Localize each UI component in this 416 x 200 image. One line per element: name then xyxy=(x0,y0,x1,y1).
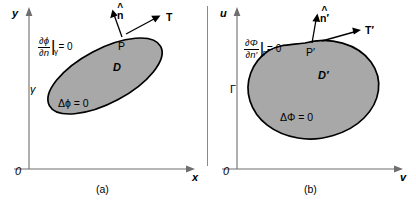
panel-a: y x 0 ∂ϕ ∂n |γ= 0 γ D P ^ n T Δϕ = 0 (a) xyxy=(0,0,208,200)
bc-fraction-a: ∂ϕ ∂n xyxy=(38,36,50,59)
boundary-condition-a: ∂ϕ ∂n |γ= 0 xyxy=(38,36,73,59)
panel-b-graphics xyxy=(208,0,416,200)
bc-rhs-a: = 0 xyxy=(58,42,72,52)
caption-b: (b) xyxy=(304,184,317,195)
tangent-arrowhead-a xyxy=(151,16,160,23)
bc-subscript-b: Γ xyxy=(263,50,267,58)
origin-label-a: 0 xyxy=(15,166,21,177)
panel-b: u v 0 ∂Φ ∂n′ |Γ= 0 Γ D′ P′ ^ n′ T′ ΔΦ = … xyxy=(208,0,416,200)
normal-hat-wrap-b: ^ n′ xyxy=(320,13,329,24)
caption-a: (a) xyxy=(96,184,109,195)
bc-denominator-a: ∂n xyxy=(38,48,50,59)
tangent-arrowhead-b xyxy=(352,27,361,34)
laplace-equation-a: Δϕ = 0 xyxy=(58,98,89,109)
tangent-vector-a xyxy=(126,19,154,34)
domain-label-a: D xyxy=(113,62,121,73)
normal-hat-mark-b: ^ xyxy=(320,6,329,16)
point-label-a: P xyxy=(118,41,125,52)
bc-denominator-b: ∂n′ xyxy=(244,50,259,61)
tangent-label-a: T xyxy=(166,12,172,23)
laplace-equation-b: ΔΦ = 0 xyxy=(280,112,313,123)
y-axis-arrowhead-a xyxy=(26,7,33,16)
normal-arrowhead-b xyxy=(312,14,320,23)
boundary-curve-label-a: γ xyxy=(30,84,36,95)
v-axis-label-b: v xyxy=(400,172,406,183)
u-axis-arrowhead-b xyxy=(234,7,241,16)
bc-bar-b: |Γ xyxy=(260,41,264,57)
bc-bar-a: |γ xyxy=(51,39,55,55)
x-axis-label-a: x xyxy=(192,172,198,183)
panel-a-graphics xyxy=(0,0,208,200)
bc-rhs-b: = 0 xyxy=(267,44,281,54)
bc-fraction-b: ∂Φ ∂n′ xyxy=(244,38,259,61)
origin-label-b: 0 xyxy=(223,166,229,177)
tangent-label-b: T′ xyxy=(365,25,374,36)
normal-vector-b xyxy=(312,20,316,43)
boundary-curve-label-b: Γ xyxy=(230,84,236,95)
normal-hat-mark-a: ^ xyxy=(117,3,123,13)
normal-label-a: ^ n xyxy=(117,10,123,21)
domain-label-b: D′ xyxy=(318,70,329,81)
normal-label-b: ^ n′ xyxy=(320,13,329,24)
bc-subscript-a: γ xyxy=(54,48,58,56)
boundary-condition-b: ∂Φ ∂n′ |Γ= 0 xyxy=(244,38,281,61)
u-axis-label-b: u xyxy=(220,8,227,19)
point-label-b: P′ xyxy=(306,47,315,58)
tangent-vector-b xyxy=(322,32,354,41)
normal-hat-wrap-a: ^ n xyxy=(117,10,123,21)
figure-container: y x 0 ∂ϕ ∂n |γ= 0 γ D P ^ n T Δϕ = 0 (a) xyxy=(0,0,416,200)
y-axis-label-a: y xyxy=(12,8,18,19)
